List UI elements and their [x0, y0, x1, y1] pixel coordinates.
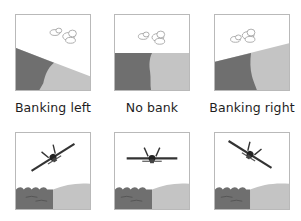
horizon-illustration-center [115, 15, 189, 90]
airplane-icon [127, 148, 178, 164]
horizon-illustration-left [16, 15, 90, 90]
cloud-icon [231, 29, 255, 42]
label-banking-right: Banking right [202, 100, 301, 115]
aircraft-panel-center [114, 132, 190, 210]
aircraft-illustration-right [215, 133, 289, 209]
airplane-icon [226, 133, 277, 172]
airplane-icon [26, 135, 77, 175]
horizon-panel-left [15, 14, 91, 91]
label-no-bank: No bank [102, 100, 202, 115]
aircraft-panel-right [214, 132, 290, 210]
aircraft-illustration-left [16, 133, 90, 209]
cloud-icon [50, 28, 76, 43]
cloud-icon [138, 31, 164, 44]
horizon-illustration-right [215, 15, 289, 90]
aircraft-illustration-center [115, 133, 189, 209]
horizon-panel-right [214, 14, 290, 91]
aircraft-panel-left [15, 132, 91, 210]
horizon-panel-center [114, 14, 190, 91]
label-banking-left: Banking left [3, 100, 103, 115]
